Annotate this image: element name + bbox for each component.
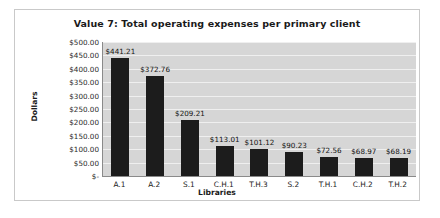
bar[interactable]	[111, 58, 129, 176]
bar-slot: $101.12	[242, 42, 277, 176]
bar[interactable]	[320, 157, 338, 176]
bar[interactable]	[390, 158, 408, 176]
bar-slot: $209.21	[173, 42, 208, 176]
bar-slot: $68.97	[346, 42, 381, 176]
bar[interactable]	[250, 149, 268, 176]
y-axis-tick-label: $200.00	[49, 118, 99, 127]
bar-slot: $68.19	[381, 42, 416, 176]
plot-area: $441.21$372.76$209.21$113.01$101.12$90.2…	[102, 42, 416, 177]
bar[interactable]	[181, 120, 199, 176]
bar-value-label: $372.76	[140, 65, 170, 74]
y-axis-tick-label: $500.00	[49, 38, 99, 47]
bar-value-label: $68.19	[386, 147, 411, 156]
bar-slot: $72.56	[312, 42, 347, 176]
bar-slot: $372.76	[138, 42, 173, 176]
y-axis-title: Dollars	[30, 77, 39, 137]
x-axis-title: Libraries	[15, 188, 419, 197]
bar-value-label: $101.12	[245, 138, 275, 147]
y-axis-tick-label: $300.00	[49, 91, 99, 100]
y-axis-tick-label: $150.00	[49, 131, 99, 140]
bar[interactable]	[146, 76, 164, 176]
y-axis-tick-label: $250.00	[49, 105, 99, 114]
y-axis-tick-label: $450.00	[49, 51, 99, 60]
bar[interactable]	[216, 146, 234, 176]
bar-series: $441.21$372.76$209.21$113.01$101.12$90.2…	[103, 42, 416, 176]
bar-value-label: $68.97	[351, 147, 376, 156]
y-axis-tick-label: $100.00	[49, 145, 99, 154]
bar-value-label: $113.01	[210, 135, 240, 144]
chart-frame: Value 7: Total operating expenses per pr…	[14, 9, 420, 201]
bar-value-label: $209.21	[175, 109, 205, 118]
bar-slot: $113.01	[207, 42, 242, 176]
bar-value-label: $441.21	[106, 47, 136, 56]
bar[interactable]	[285, 152, 303, 176]
y-axis-tick-label: $-	[49, 172, 99, 181]
y-axis-tick-label: $350.00	[49, 78, 99, 87]
y-axis-tick-label: $50.00	[49, 158, 99, 167]
bar-slot: $90.23	[277, 42, 312, 176]
bar-value-label: $90.23	[282, 141, 307, 150]
bar[interactable]	[355, 158, 373, 176]
bar-value-label: $72.56	[316, 146, 341, 155]
y-axis-tick-labels: $500.00$450.00$400.00$350.00$300.00$250.…	[49, 42, 99, 176]
bar-slot: $441.21	[103, 42, 138, 176]
chart-title: Value 7: Total operating expenses per pr…	[15, 18, 419, 29]
y-axis-tick-label: $400.00	[49, 64, 99, 73]
